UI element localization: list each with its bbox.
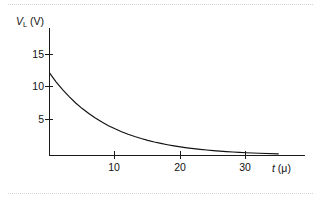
plot-area [0, 0, 317, 199]
figure-container: VL (V) t (μ) 15 10 5 10 20 30 [0, 0, 317, 199]
decay-curve [50, 73, 279, 154]
